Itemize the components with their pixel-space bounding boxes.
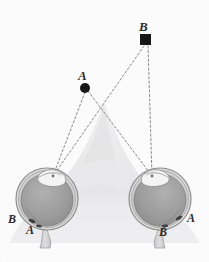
point-a-marker xyxy=(80,83,90,93)
label-right-eye-retinal-b: B xyxy=(159,226,167,238)
label-object-point-b: B xyxy=(139,20,148,33)
label-object-point-a: A xyxy=(78,69,87,82)
binocular-disparity-figure: A B B A A B xyxy=(0,0,209,262)
label-right-eye-retinal-a: A xyxy=(187,212,195,224)
label-left-eye-retinal-a: A xyxy=(26,224,34,236)
point-b-marker xyxy=(140,34,151,45)
label-left-eye-retinal-b: B xyxy=(8,213,16,225)
object-markers xyxy=(80,34,151,93)
